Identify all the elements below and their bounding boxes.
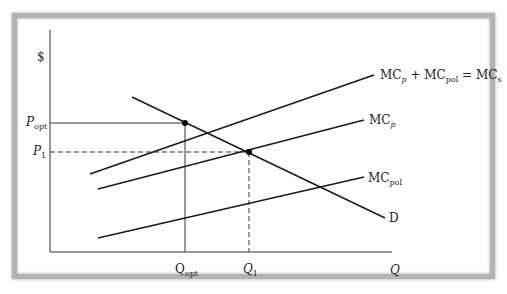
q1-label: Q1 [243,263,258,275]
q1-sub: 1 [253,269,258,278]
mcs-c-sub: s [497,75,501,84]
q1-main: Q [243,262,253,276]
mcpol-main: MC [368,171,389,185]
mcs-line [90,75,374,174]
p-opt-label: Popt [26,116,47,128]
mcs-eq: = MC [458,68,497,82]
mcpol-label: MCpol [368,172,402,184]
x-axis-label-text: Q [390,263,400,277]
mcs-a: MC [380,68,401,82]
x-axis-label: Q [390,264,400,276]
p1-sub: 1 [41,151,46,160]
p1-label: P1 [33,145,46,157]
y-axis-label: $ [37,51,45,63]
mcpol-line [98,177,364,238]
mcp-line [98,120,364,189]
mcs-label: MCp + MCpol = MCs [380,69,502,81]
mcs-plus: + MC [407,68,446,82]
q-opt-label: Qopt [175,263,198,275]
demand-label: D [389,212,399,224]
mcp-sub: p [390,120,395,129]
mcp-label: MCp [369,114,396,126]
q-opt-main: Q [175,262,185,276]
opt-point [182,120,188,126]
p-opt-sub: opt [34,122,47,131]
p1-point [246,149,252,155]
mcp-main: MC [369,113,390,127]
chart-plot [0,0,507,294]
p-opt-main: P [26,115,34,129]
mcs-b-sub: pol [446,75,459,84]
q-opt-sub: opt [185,269,198,278]
p1-main: P [33,144,41,158]
mcpol-sub: pol [389,178,402,187]
